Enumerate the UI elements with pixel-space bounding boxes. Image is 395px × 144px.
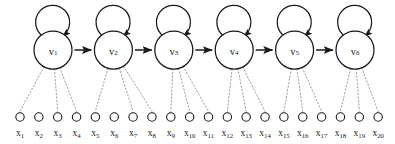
observation-node-x12[interactable]: x12: [222, 113, 234, 140]
observation-circle-x13: [242, 113, 250, 121]
observation-node-x4[interactable]: x4: [72, 113, 81, 140]
emission-edge-v5-to-x16: [297, 69, 303, 111]
observation-circle-x11: [204, 113, 212, 121]
state-node-v6[interactable]: v6: [336, 31, 374, 69]
observation-node-x8[interactable]: x8: [148, 113, 157, 140]
observation-circle-x7: [129, 113, 137, 121]
observation-label-x15: x15: [278, 128, 290, 139]
observation-circle-x9: [167, 113, 175, 121]
observation-label-x8: x8: [148, 128, 157, 139]
observation-label-x12: x12: [222, 128, 234, 139]
observation-node-x10[interactable]: x10: [184, 113, 196, 140]
observation-node-x19[interactable]: x19: [354, 113, 366, 140]
observation-nodes-group: x1x2x3x4x5x6x7x8x9x10x11x12x13x14x15x16x…: [16, 113, 385, 140]
observation-label-x17: x17: [316, 128, 328, 139]
self-loop-arrows-group: [36, 5, 372, 36]
emission-edge-v4-to-x14: [243, 67, 265, 111]
emission-edge-v1-to-x4: [60, 68, 77, 112]
hmm-diagram: v1v2v3v4v5v6 x1x2x3x4x5x6x7x8x9x10x11x12…: [0, 0, 395, 144]
observation-label-x2: x2: [35, 128, 44, 139]
emission-edges-group: [20, 66, 378, 111]
observation-node-x18[interactable]: x18: [335, 113, 347, 140]
emission-edge-v6-to-x18: [340, 68, 350, 111]
observation-circle-x5: [91, 113, 99, 121]
observation-label-x14: x14: [259, 128, 271, 139]
emission-edge-v2-to-x7: [119, 68, 133, 111]
observation-label-x19: x19: [354, 128, 366, 139]
observation-circle-x19: [355, 113, 363, 121]
state-node-v4[interactable]: v4: [215, 31, 253, 69]
observation-node-x3[interactable]: x3: [54, 113, 63, 140]
observation-circle-x3: [54, 113, 62, 121]
observation-label-x3: x3: [54, 128, 63, 139]
emission-edge-v1-to-x1: [20, 67, 44, 112]
observation-circle-x6: [110, 113, 118, 121]
observation-node-x20[interactable]: x20: [372, 113, 384, 140]
observation-node-x2[interactable]: x2: [35, 113, 44, 140]
observation-circle-x1: [16, 113, 24, 121]
diagram-canvas: v1v2v3v4v5v6 x1x2x3x4x5x6x7x8x9x10x11x12…: [0, 0, 395, 144]
observation-label-x11: x11: [203, 128, 214, 139]
observation-circle-x12: [223, 113, 231, 121]
observation-label-x10: x10: [184, 128, 196, 139]
observation-label-x7: x7: [129, 128, 138, 139]
observation-circle-x10: [185, 113, 193, 121]
state-node-v1[interactable]: v1: [34, 31, 72, 69]
observation-label-x4: x4: [72, 128, 81, 139]
emission-edge-v6-to-x19: [356, 69, 359, 111]
observation-circle-x14: [261, 113, 269, 121]
observation-node-x17[interactable]: x17: [316, 113, 328, 140]
observation-circle-x18: [336, 113, 344, 121]
state-node-v5[interactable]: v5: [276, 31, 314, 69]
emission-edge-v4-to-x12: [227, 69, 232, 111]
emission-edge-v3-to-x10: [179, 68, 190, 111]
emission-edge-v2-to-x5: [95, 68, 108, 111]
emission-edge-v6-to-x20: [362, 68, 378, 112]
emission-edge-v2-to-x8: [124, 66, 152, 111]
emission-edge-v4-to-x13: [238, 69, 246, 112]
observation-node-x16[interactable]: x16: [297, 113, 309, 140]
observation-node-x9[interactable]: x9: [167, 113, 176, 140]
observation-node-x14[interactable]: x14: [259, 113, 271, 140]
observation-node-x1[interactable]: x1: [16, 113, 24, 140]
observation-label-x20: x20: [372, 128, 384, 139]
observation-circle-x2: [35, 113, 43, 121]
observation-circle-x20: [374, 113, 382, 121]
state-node-v2[interactable]: v2: [94, 31, 132, 69]
emission-edge-v1-to-x3: [54, 69, 57, 111]
observation-node-x7[interactable]: x7: [129, 113, 138, 140]
observation-node-x11[interactable]: x11: [203, 113, 214, 140]
observation-node-x13[interactable]: x13: [240, 113, 252, 140]
emission-edge-v5-to-x17: [302, 67, 321, 111]
emission-edge-v5-to-x15: [284, 69, 291, 112]
emission-edge-v3-to-x9: [171, 69, 173, 111]
observation-circle-x4: [72, 113, 80, 121]
observation-label-x9: x9: [167, 128, 176, 139]
observation-circle-x8: [148, 113, 156, 121]
state-node-v3[interactable]: v3: [155, 31, 193, 69]
observation-label-x16: x16: [297, 128, 309, 139]
observation-label-x13: x13: [240, 128, 252, 139]
emission-edge-v3-to-x11: [183, 67, 208, 112]
observation-node-x6[interactable]: x6: [110, 113, 119, 140]
observation-circle-x15: [280, 113, 288, 121]
observation-label-x1: x1: [16, 128, 24, 139]
observation-node-x5[interactable]: x5: [91, 113, 100, 140]
observation-node-x15[interactable]: x15: [278, 113, 290, 140]
observation-circle-x16: [299, 113, 307, 121]
observation-label-x6: x6: [110, 128, 119, 139]
observation-label-x5: x5: [91, 128, 100, 139]
observation-circle-x17: [317, 113, 325, 121]
observation-label-x18: x18: [335, 128, 347, 139]
